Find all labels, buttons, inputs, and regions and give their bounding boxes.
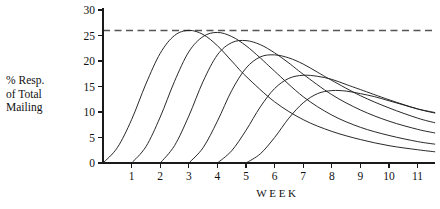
x-tick-label: 9 xyxy=(358,170,364,182)
x-tick-label: 3 xyxy=(186,170,192,182)
x-axis-ticks-group: 1234567891011 xyxy=(129,163,424,182)
x-axis-title: WEEK xyxy=(256,187,298,199)
y-tick-label: 30 xyxy=(84,4,96,16)
x-tick-label: 1 xyxy=(129,170,135,182)
y-tick-label: 5 xyxy=(89,132,95,144)
y-tick-label: 10 xyxy=(84,106,96,118)
series-curve xyxy=(103,30,435,163)
series-curves-group xyxy=(103,30,435,163)
y-axis-ticks-group: 051015202530 xyxy=(84,4,104,169)
x-tick-label: 4 xyxy=(215,170,221,182)
x-tick-label: 11 xyxy=(412,170,423,182)
x-tick-label: 5 xyxy=(243,170,249,182)
x-tick-label: 10 xyxy=(383,170,395,182)
x-tick-label: 8 xyxy=(329,170,335,182)
axes-group xyxy=(103,8,435,163)
series-curve xyxy=(217,75,434,163)
x-tick-label: 7 xyxy=(300,170,306,182)
series-curve xyxy=(132,32,435,163)
y-tick-label: 15 xyxy=(84,81,96,93)
y-tick-label: 0 xyxy=(89,157,95,169)
y-tick-label: 25 xyxy=(84,30,96,42)
chart-plot-area: 051015202530 1234567891011 WEEK xyxy=(0,0,440,209)
y-tick-label: 20 xyxy=(84,55,96,67)
chart-figure: % Resp. of Total Mailing 051015202530 12… xyxy=(0,0,440,209)
x-tick-label: 6 xyxy=(272,170,278,182)
x-tick-label: 2 xyxy=(157,170,163,182)
